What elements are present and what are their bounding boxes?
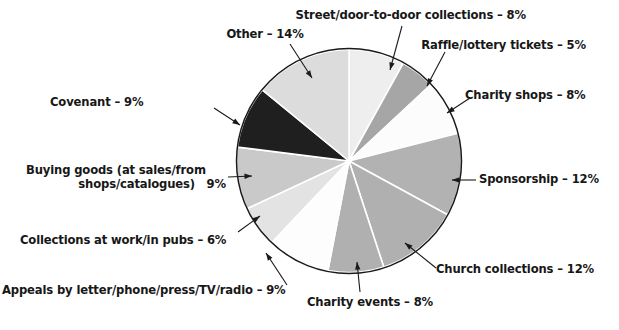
slice-label-street: Street/door-to-door collections – 8% [196, 8, 526, 22]
slice-label-charity-shops: Charity shops – 8% [465, 88, 615, 102]
leader-arrowhead [266, 253, 272, 261]
slice-label-charity-events: Charity events – 8% [290, 295, 450, 309]
slice-label-church: Church collections – 12% [436, 262, 616, 276]
slice-label-appeals: Appeals by letter/phone/press/TV/radio –… [2, 283, 287, 297]
slice-label-raffle: Raffle/lottery tickets – 5% [296, 38, 586, 52]
leader-arrowhead [232, 119, 240, 125]
slice-label-covenant: Covenant – 9% [50, 95, 215, 109]
slice-label-buying-goods-line2: shops/catalogues) 9% [26, 177, 226, 191]
slice-label-buying-goods-line1: Buying goods (at sales/from [26, 163, 226, 177]
pie-chart-figure: Other – 14% Street/door-to-door collecti… [0, 0, 619, 330]
slice-label-work-pubs: Collections at work/in pubs – 6% [20, 233, 265, 247]
slice-label-sponsorship: Sponsorship – 12% [479, 172, 619, 186]
